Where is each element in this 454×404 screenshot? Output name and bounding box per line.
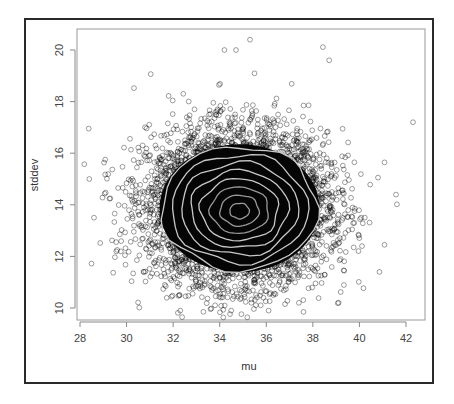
dense-core xyxy=(160,144,320,272)
y-tick-label: 20 xyxy=(53,44,65,56)
x-tick-label: 36 xyxy=(260,332,272,344)
x-tick-label: 28 xyxy=(74,332,86,344)
y-tick-label: 16 xyxy=(53,147,65,159)
y-axis-title: stddev xyxy=(28,158,40,191)
x-tick-label: 34 xyxy=(214,332,226,344)
x-tick-label: 40 xyxy=(353,332,365,344)
y-axis: 101214161820 xyxy=(53,44,75,314)
y-tick-label: 18 xyxy=(53,95,65,107)
x-tick-label: 30 xyxy=(120,332,132,344)
density-contours xyxy=(160,144,320,272)
x-axis: 2830323436384042 xyxy=(74,322,412,344)
y-tick-label: 12 xyxy=(53,250,65,262)
y-tick-label: 10 xyxy=(53,302,65,314)
x-tick-label: 38 xyxy=(307,332,319,344)
scatter-chart: 2830323436384042 101214161820 mu stddev xyxy=(0,0,454,404)
x-tick-label: 42 xyxy=(400,332,412,344)
x-axis-title: mu xyxy=(241,360,256,372)
x-tick-label: 32 xyxy=(167,332,179,344)
y-tick-label: 14 xyxy=(53,199,65,211)
